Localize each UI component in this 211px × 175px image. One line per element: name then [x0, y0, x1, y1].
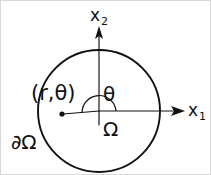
axis-label-x1: x — [188, 100, 198, 120]
point-marker — [59, 111, 64, 116]
axis-label-x2: x — [90, 5, 100, 25]
vertical-axis-x2 — [95, 26, 103, 125]
axis-label-x1-subscript: 1 — [199, 110, 206, 123]
boundary-label: ∂Ω — [11, 130, 37, 154]
domain-label: Ω — [103, 117, 118, 141]
radius-ray — [63, 111, 99, 114]
horizontal-axis-x1 — [99, 106, 185, 116]
axis-label-x2-subscript: 2 — [101, 15, 108, 28]
point-label: (r,θ) — [31, 81, 76, 105]
polar-coordinates-diagram: x 2 x 1 (r,θ) θ Ω ∂Ω — [1, 1, 211, 175]
figure-canvas: x 2 x 1 (r,θ) θ Ω ∂Ω — [0, 0, 211, 175]
angle-label: θ — [103, 82, 115, 106]
